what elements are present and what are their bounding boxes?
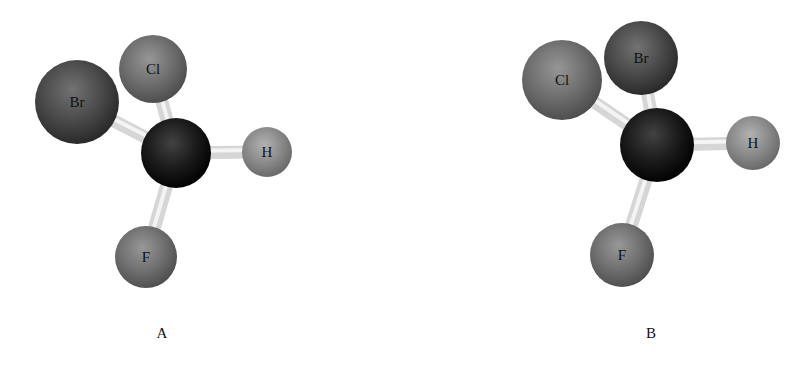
atom-hydrogen: H [726,116,780,170]
atom-label-cl: Cl [146,61,160,77]
atom-fluorine: F [590,223,654,287]
atom-label-br: Br [634,50,649,66]
atom-bromine: Br [35,60,119,144]
atom-sphere-c [141,118,211,188]
atom-label-f: F [618,247,626,263]
atom-bromine: Br [604,21,678,95]
atom-label-h: H [262,144,273,160]
caption-b: B [646,325,656,341]
atom-hydrogen: H [242,127,292,177]
molecule-comparison-figure: ClBrHF BrClHF A B [0,0,807,366]
molecule-model-a: ClBrHF [35,35,292,288]
atom-fluorine: F [115,226,177,288]
atom-label-br: Br [70,94,85,110]
atom-chlorine: Cl [119,35,187,103]
atom-label-h: H [748,135,759,151]
atom-carbon [620,108,694,182]
atom-sphere-c [620,108,694,182]
atom-chlorine: Cl [522,40,602,120]
molecule-model-b: BrClHF [522,21,780,287]
caption-a: A [157,325,168,341]
atom-label-cl: Cl [555,72,569,88]
atom-label-f: F [142,249,150,265]
atom-carbon [141,118,211,188]
